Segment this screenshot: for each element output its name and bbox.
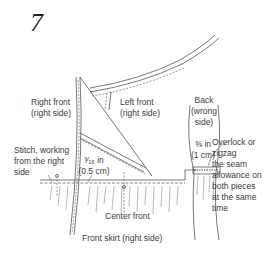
label-front-skirt: Front skirt (right side) bbox=[82, 233, 162, 244]
label-line: Overlock or bbox=[212, 137, 262, 148]
label-line: time bbox=[212, 203, 262, 214]
label-line: ³⁄₁₆ in bbox=[76, 155, 112, 166]
label-line: from the right bbox=[14, 156, 69, 167]
label-right-front: Right front (right side) bbox=[31, 97, 71, 119]
label-line: (right side) bbox=[120, 108, 160, 119]
label-front-allowance: ³⁄₁₆ in (0.5 cm) bbox=[76, 155, 112, 177]
label-line: Left front bbox=[120, 97, 160, 108]
label-line: (wrong bbox=[187, 106, 221, 117]
label-left-front: Left front (right side) bbox=[120, 97, 160, 119]
label-back: Back (wrong side) bbox=[187, 95, 221, 128]
label-line: (0.5 cm) bbox=[76, 166, 112, 177]
label-line: the seam bbox=[212, 159, 262, 170]
label-line: both pieces bbox=[212, 181, 262, 192]
left-front-neckline-inner bbox=[90, 38, 219, 92]
label-overlock: Overlock or zigzag the seam allowance on… bbox=[212, 137, 262, 214]
label-line: Back bbox=[187, 95, 221, 106]
label-line: side) bbox=[187, 117, 221, 128]
label-line: allowance on bbox=[212, 170, 262, 181]
label-line: Stitch, working bbox=[14, 145, 69, 156]
label-line: zigzag bbox=[212, 148, 262, 159]
label-line: at the same bbox=[212, 192, 262, 203]
label-center-front: Center front bbox=[105, 211, 150, 222]
label-line: (right side) bbox=[31, 108, 71, 119]
label-line: side bbox=[14, 167, 69, 178]
label-stitch: Stitch, working from the right side bbox=[14, 145, 69, 178]
label-line: Right front bbox=[31, 97, 71, 108]
left-front-neckline bbox=[90, 35, 215, 88]
